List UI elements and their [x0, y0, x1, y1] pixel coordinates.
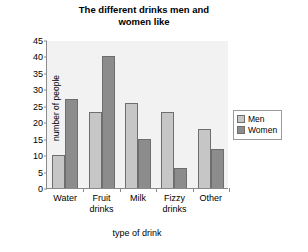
x-axis-tick-mark	[120, 188, 121, 192]
bar-women-fizzy-drinks	[174, 168, 187, 188]
bar-men-water	[52, 155, 65, 188]
y-axis-tick-label: 10	[33, 151, 43, 161]
x-axis-tick-label: Other	[186, 193, 236, 204]
bar-men-fruit-drinks	[89, 112, 102, 188]
bar-women-other	[211, 149, 224, 188]
y-axis-tick-label: 30	[33, 85, 43, 95]
y-axis-tick-label: 5	[38, 168, 43, 178]
x-axis-tick-mark	[229, 188, 230, 192]
chart-title: The different drinks men andwomen like	[44, 4, 244, 28]
bar-group	[193, 41, 229, 188]
y-axis-tick-label: 35	[33, 69, 43, 79]
y-axis-tick-label: 20	[33, 118, 43, 128]
bar-women-milk	[138, 139, 151, 188]
bar-chart: The different drinks men andwomen like n…	[0, 0, 308, 252]
x-axis-tick-mark	[83, 188, 84, 192]
chart-title-line-0: The different drinks men and	[44, 4, 244, 16]
bar-men-other	[198, 129, 211, 188]
y-axis-tick-label: 25	[33, 102, 43, 112]
bar-group	[120, 41, 156, 188]
bar-group	[47, 41, 83, 188]
x-axis-tick-mark	[156, 188, 157, 192]
legend-item-men[interactable]: Men	[237, 114, 277, 124]
bar-women-fruit-drinks	[102, 56, 115, 188]
y-axis-tick-mark	[44, 189, 47, 190]
bar-men-milk	[125, 103, 138, 189]
legend-item-women[interactable]: Women	[237, 125, 277, 135]
chart-legend: MenWomen	[233, 110, 282, 140]
y-axis-tick-label: 15	[33, 135, 43, 145]
chart-title-line-1: women like	[44, 16, 244, 28]
bar-group	[156, 41, 192, 188]
plot-area: number of people 051015202530354045Water…	[46, 41, 228, 189]
plot-inner: 051015202530354045WaterFruit drinksMilkF…	[47, 41, 228, 188]
legend-label: Men	[248, 114, 265, 124]
bar-group	[83, 41, 119, 188]
legend-label: Women	[248, 125, 277, 135]
y-axis-tick-label: 45	[33, 36, 43, 46]
legend-swatch-icon	[237, 115, 245, 123]
y-axis-tick-label: 40	[33, 52, 43, 62]
bar-men-fizzy-drinks	[161, 112, 174, 188]
x-axis-tick-mark	[193, 188, 194, 192]
legend-swatch-icon	[237, 126, 245, 134]
x-axis-title: type of drink	[46, 228, 228, 238]
bar-women-water	[65, 99, 78, 188]
